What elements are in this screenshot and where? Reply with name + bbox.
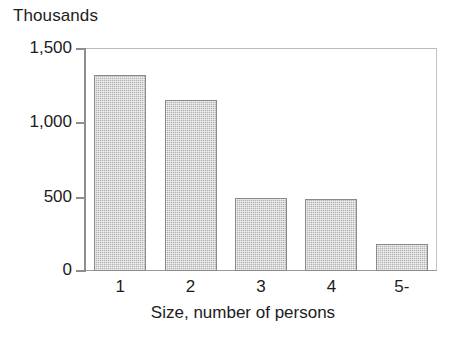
bar-category-1 <box>94 75 146 271</box>
y-tick-label-1500: 1,500 <box>29 39 72 57</box>
y-tick-mark-1500 <box>76 48 84 50</box>
x-tick-label-5: 5- <box>372 277 432 297</box>
bar-category-2 <box>165 100 217 271</box>
x-axis-title: Size, number of persons <box>0 303 450 323</box>
y-axis-unit-caption: Thousands <box>13 6 98 26</box>
y-tick-label-1000: 1,000 <box>29 113 72 131</box>
x-tick-label-2: 2 <box>161 277 221 297</box>
y-tick-mark-1000 <box>76 122 84 124</box>
bar-chart-figure: Thousands 1,500 1,000 500 0 1 2 3 4 5- S… <box>0 0 450 341</box>
x-tick-label-1: 1 <box>90 277 150 297</box>
bar-category-5 <box>376 244 428 271</box>
x-tick-label-3: 3 <box>231 277 291 297</box>
y-tick-label-0: 0 <box>63 261 72 279</box>
x-tick-label-4: 4 <box>301 277 361 297</box>
y-tick-label-500: 500 <box>44 188 72 206</box>
y-tick-mark-0 <box>76 270 84 272</box>
bar-category-4 <box>305 199 357 271</box>
bars-layer <box>85 48 437 271</box>
bar-category-3 <box>235 198 287 271</box>
y-tick-mark-500 <box>76 197 84 199</box>
